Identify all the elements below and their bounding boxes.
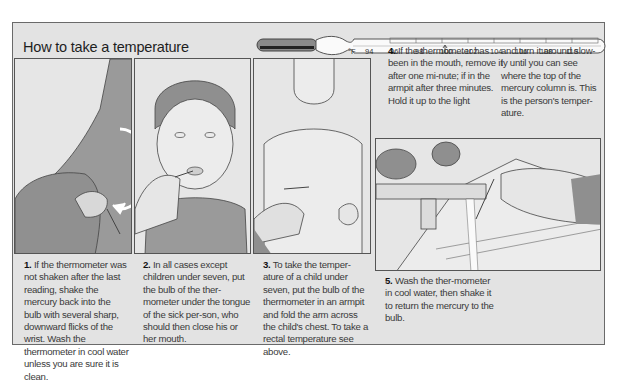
shaking-thermometer-illustration [14,58,132,254]
washing-thermometer-illustration [375,138,601,271]
instruction-panel: How to take a temperature °F 94 96 98 10… [12,22,605,345]
step-2-caption: 2. In all cases except children under se… [143,259,251,346]
step-3-caption: 3. To take the temper-ature of a child u… [263,259,371,358]
step-4-text-col2: and turn it around slow-ly until you can… [501,45,596,118]
oral-thermometer-illustration [134,58,251,254]
step-2-number: 2. [143,259,151,270]
step-1-number: 1. [24,259,32,270]
step-1-text: If the thermometer was not shaken after … [24,259,129,382]
page-title: How to take a temperature [23,39,189,55]
scale-label-94: 94 [365,47,373,56]
step-4-text-col1: If the thermometer has been in the mouth… [388,45,503,106]
step-1-caption: 1. If the thermometer was not shaken aft… [24,259,130,383]
armpit-thermometer-illustration [253,58,371,254]
step-3-number: 3. [263,259,271,270]
step-5-caption: 5. Wash the ther-mometer in cool water, … [385,275,497,325]
step-5-text: Wash the ther-mometer in cool water, the… [385,275,494,323]
thermometer-unit-label: °F [348,47,356,56]
step-4-number: 4. [388,45,396,56]
step-4-caption-col2: and turn it around slow-ly until you can… [501,45,601,119]
step-2-text: In all cases except children under seven… [143,259,250,344]
step-3-text: To take the temper-ature of a child unde… [263,259,368,357]
step-5-number: 5. [385,275,393,286]
step-4-caption-col1: 4. If the thermometer has been in the mo… [388,45,503,107]
